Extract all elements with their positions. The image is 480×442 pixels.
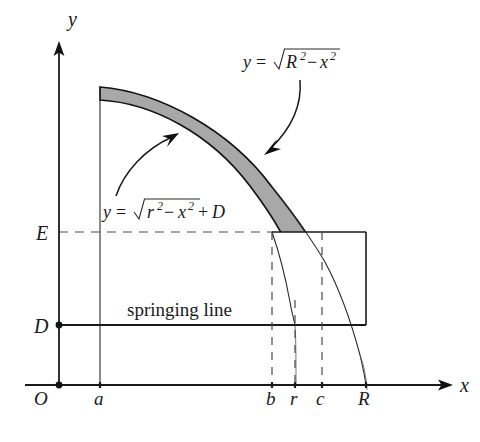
inner-equation-pointer-arrow	[116, 137, 172, 196]
outer-eq-term-base: x	[319, 52, 328, 72]
outer-eq-radicand-exp: 2	[300, 49, 306, 63]
figure-container: y x O a b r c R E D springing line y = R…	[0, 0, 480, 442]
outer-eq-term-exp: 2	[330, 49, 336, 63]
tick-label-b: b	[266, 388, 276, 409]
inner-curve-equation: y = r 2 − x 2 + D	[101, 199, 225, 222]
outer-curve-equation: y = R 2 − x 2	[241, 49, 340, 72]
outer-eq-equals: =	[256, 52, 266, 72]
inner-eq-radicand-base: r	[147, 202, 155, 222]
outer-eq-radicand-base: R	[285, 52, 297, 72]
outer-equation-pointer-arrow	[270, 80, 300, 149]
arch-cross-section-diagram: y x O a b r c R E D springing line y = R…	[0, 0, 480, 442]
inner-eq-lhs: y	[101, 202, 111, 222]
inner-eq-plus: +	[198, 202, 208, 222]
outer-eq-minus: −	[307, 52, 317, 72]
origin-label: O	[34, 388, 48, 409]
arch-ring-shape	[100, 87, 318, 256]
origin-dot	[56, 382, 63, 389]
shaded-arch-band	[100, 87, 318, 256]
inner-arc-lower-continuation	[272, 232, 295, 325]
outer-eq-lhs: y	[241, 52, 251, 72]
level-label-D: D	[33, 315, 49, 337]
tick-label-c: c	[316, 388, 325, 409]
springing-line-label: springing line	[127, 299, 232, 320]
y-axis-label: y	[66, 8, 77, 31]
inner-eq-equals: =	[116, 202, 126, 222]
inner-eq-term-exp: 2	[188, 199, 194, 213]
x-axis-label: x	[459, 374, 469, 396]
inner-eq-offset: D	[211, 202, 225, 222]
inner-eq-term-base: x	[177, 202, 186, 222]
inner-eq-radicand-exp: 2	[157, 199, 163, 213]
tick-label-a: a	[94, 388, 104, 409]
outer-equation-arrowhead-icon	[264, 139, 281, 155]
inner-eq-minus: −	[164, 202, 174, 222]
level-label-E: E	[35, 222, 48, 244]
tick-label-r: r	[290, 388, 298, 409]
tick-label-R: R	[357, 388, 370, 409]
